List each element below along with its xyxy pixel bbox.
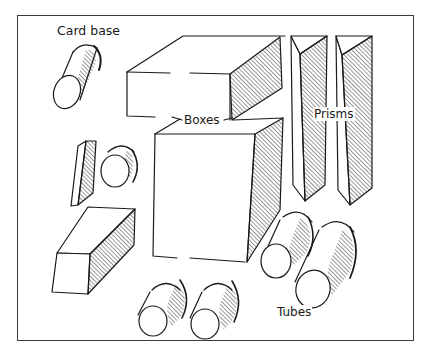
- shapes-illustration: [0, 0, 430, 352]
- flat-box-shape: [127, 36, 285, 120]
- bottom-tube-shape-1: [138, 280, 187, 336]
- prisms-label: Prisms: [313, 107, 355, 121]
- long-box-shape: [52, 207, 135, 294]
- small-tube-shape: [101, 146, 137, 187]
- card-base-tube-shape: [49, 45, 101, 113]
- boxes-label: Boxes: [183, 113, 221, 127]
- tall-cube-shape: [153, 118, 283, 262]
- tubes-label: Tubes: [276, 305, 312, 319]
- thin-card-shape: [71, 141, 96, 206]
- bottom-tube-shape-2: [190, 281, 239, 339]
- card-base-label: Card base: [56, 24, 121, 38]
